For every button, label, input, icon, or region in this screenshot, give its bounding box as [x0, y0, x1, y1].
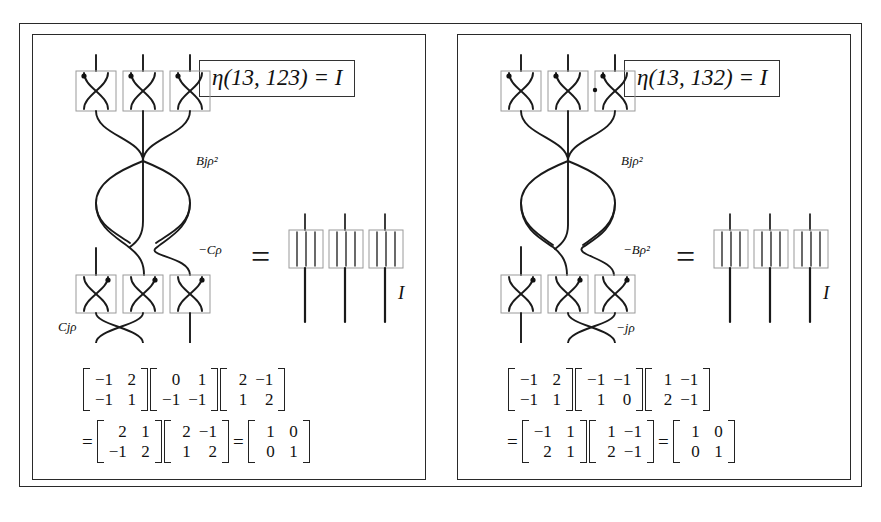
panel-right: η(13, 132) = I [457, 34, 851, 480]
panel-right-label-upper: Bjρ² [621, 153, 644, 168]
matrix-cell: 1 [601, 423, 616, 440]
matrix-cells: −12−11 [90, 368, 141, 411]
matrix-bracket-right [703, 368, 710, 411]
panel-right-equals: = [676, 240, 695, 274]
matrix-cells: −1−110 [582, 368, 636, 411]
matrix-bracket-right [278, 368, 285, 411]
matrix-bracket-left [164, 420, 171, 463]
matrix-cells: 2−112 [227, 368, 278, 411]
matrix-cell: 1 [135, 423, 150, 440]
matrix-cell: 1 [283, 443, 298, 460]
matrix-cell: −1 [95, 391, 113, 408]
matrix-cell: −1 [188, 391, 206, 408]
outer-frame: η(13, 123) = I [19, 23, 862, 487]
matrix-cell: 1 [546, 391, 561, 408]
matrix-cell: 2 [601, 443, 616, 460]
matrix-bracket-right [141, 368, 148, 411]
matrix-bracket-right [566, 368, 573, 411]
panel-left-matrix-equations: −12−1101−1−12−112=21−122−112=1001 [82, 368, 311, 463]
matrix: −1−110 [575, 368, 643, 411]
panel-right-identity-label: I [823, 283, 829, 302]
matrix-cell: 1 [560, 423, 575, 440]
matrix-cell: 0 [613, 391, 631, 408]
matrix-cell: −1 [534, 423, 552, 440]
matrix-cell: −1 [109, 443, 127, 460]
matrix-cell: 1 [260, 423, 275, 440]
matrix-cell: 1 [587, 391, 605, 408]
matrix-bracket-left [97, 420, 104, 463]
matrix-cell: 2 [199, 443, 217, 460]
matrix: −12−11 [83, 368, 148, 411]
matrix-cells: 1−12−1 [596, 420, 647, 463]
panel-right-equals-glyph: = [676, 238, 695, 275]
matrix-cells: −1121 [529, 420, 580, 463]
panel-left-equals: = [251, 240, 270, 274]
matrix-inline-equals: = [233, 432, 244, 451]
matrix-cell: 2 [121, 371, 136, 388]
matrix-cell: 2 [657, 391, 672, 408]
matrix-equation-row: =−11211−12−1=1001 [507, 420, 736, 463]
matrix-cell: 1 [121, 391, 136, 408]
matrix-bracket-left [522, 420, 529, 463]
matrix-bracket-right [647, 420, 654, 463]
matrix-cell: 1 [657, 371, 672, 388]
matrix-cells: 2−112 [171, 420, 222, 463]
matrix-cell: −1 [255, 371, 273, 388]
matrix: 2−112 [220, 368, 285, 411]
panel-left-identity-braid [283, 210, 423, 330]
panel-left-label-upper: Bjρ² [196, 153, 219, 168]
matrix-cell: 1 [708, 443, 723, 460]
matrix-bracket-right [155, 420, 162, 463]
matrix-cells: 1001 [255, 420, 303, 463]
panel-left-identity-label: I [398, 283, 404, 302]
panel-right-label-lower: −jρ [616, 320, 635, 335]
matrix-bracket-right [580, 420, 587, 463]
matrix-bracket-right [303, 420, 310, 463]
panel-left-braid: Bjρ² −Cρ Cjρ [58, 43, 248, 343]
matrix-bracket-left [508, 368, 515, 411]
matrix: 01−1−1 [150, 368, 218, 411]
matrix-cell: −1 [587, 371, 605, 388]
matrix-leading-equals: = [507, 432, 518, 451]
matrix-cell: 2 [109, 423, 127, 440]
matrix-bracket-left [575, 368, 582, 411]
matrix-cell: −1 [162, 391, 180, 408]
matrix-equation-row: −12−11−1−1101−12−1 [507, 368, 736, 411]
matrix-cell: 1 [188, 371, 206, 388]
matrix-cell: −1 [520, 371, 538, 388]
panel-right-identity-label-text: I [823, 282, 829, 303]
matrix-cell: −1 [624, 423, 642, 440]
matrix-cell: −1 [95, 371, 113, 388]
matrix-bracket-left [220, 368, 227, 411]
matrix-equation-row: −12−1101−1−12−112 [82, 368, 311, 411]
matrix: 1−12−1 [645, 368, 710, 411]
matrix-cell: −1 [613, 371, 631, 388]
matrix-cell: 1 [232, 391, 247, 408]
matrix-cell: 2 [546, 371, 561, 388]
matrix: 1001 [673, 420, 735, 463]
panel-right-label-middle: −Bρ² [623, 242, 651, 257]
matrix-bracket-right [211, 368, 218, 411]
figure-root: η(13, 123) = I [0, 0, 881, 522]
matrix-cell: 0 [162, 371, 180, 388]
matrix-cell: 0 [708, 423, 723, 440]
panel-right-matrix-equations: −12−11−1−1101−12−1=−11211−12−1=1001 [507, 368, 736, 463]
matrix: −12−11 [508, 368, 573, 411]
matrix: 1−12−1 [589, 420, 654, 463]
matrix-cells: 1001 [680, 420, 728, 463]
matrix-cell: 2 [176, 423, 191, 440]
matrix-cell: 0 [685, 443, 700, 460]
matrix-cell: 2 [534, 443, 552, 460]
matrix-cell: 1 [560, 443, 575, 460]
matrix: −1121 [522, 420, 587, 463]
panel-left: η(13, 123) = I [32, 34, 426, 480]
matrix-bracket-left [673, 420, 680, 463]
matrix-cells: −12−11 [515, 368, 566, 411]
matrix: 21−12 [97, 420, 162, 463]
matrix-equation-row: =21−122−112=1001 [82, 420, 311, 463]
matrix-bracket-right [728, 420, 735, 463]
matrix-cell: −1 [520, 391, 538, 408]
matrix-cell: −1 [199, 423, 217, 440]
matrix-cell: 0 [283, 423, 298, 440]
matrix-cell: 2 [255, 391, 273, 408]
